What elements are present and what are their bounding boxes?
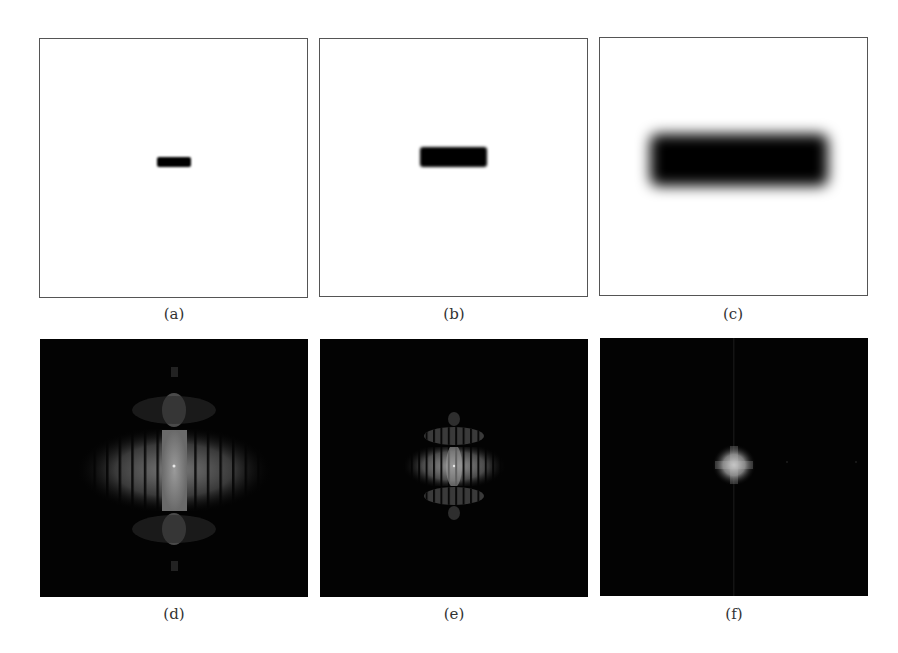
panel-d-spectrum (40, 339, 308, 597)
panel-b-label: (b) (414, 305, 494, 323)
panel-e-spectrum (320, 339, 588, 597)
panel-e-label: (e) (414, 605, 494, 623)
medium-rectangle-shape (420, 147, 487, 167)
panel-f-label: (f) (694, 605, 774, 623)
panel-a-image (39, 38, 308, 298)
large-blurred-rectangle-shape (650, 134, 828, 186)
panel-c-label: (c) (693, 305, 773, 323)
spectrum-f-graphic (600, 338, 868, 596)
panel-a-label: (a) (134, 305, 214, 323)
spectrum-d-graphic (40, 339, 308, 597)
panel-d-label: (d) (134, 605, 214, 623)
panel-b-image (319, 38, 588, 297)
small-rectangle-shape (157, 157, 191, 167)
spectrum-e-graphic (320, 339, 588, 597)
panel-c-image (599, 37, 868, 296)
panel-f-spectrum (600, 338, 868, 596)
